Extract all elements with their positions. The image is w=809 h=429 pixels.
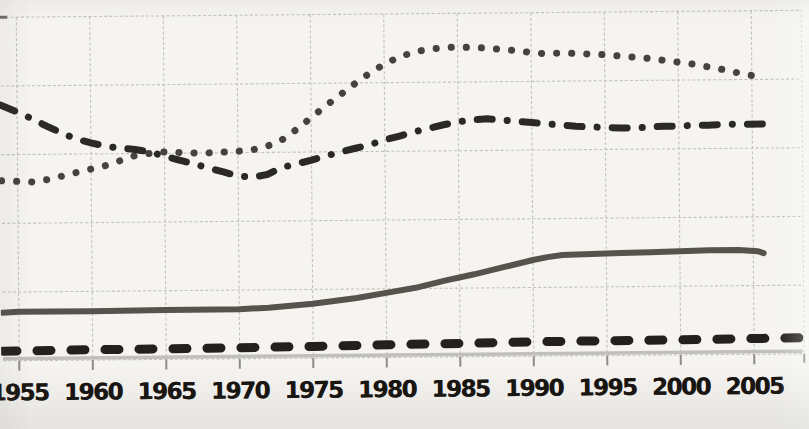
v-gridline bbox=[531, 13, 534, 356]
dashed-series-line bbox=[3, 338, 803, 351]
chart-canvas bbox=[0, 0, 809, 429]
light-gray-baseline-series-line bbox=[3, 351, 803, 359]
v-gridline-edge bbox=[801, 10, 804, 353]
h-gridline bbox=[0, 10, 800, 17]
v-gridline bbox=[384, 14, 387, 357]
v-gridline bbox=[457, 13, 460, 356]
h-gridline bbox=[2, 216, 802, 223]
v-gridline bbox=[604, 12, 607, 355]
v-gridline bbox=[751, 11, 754, 354]
solid-series-line bbox=[2, 250, 764, 313]
h-gridline bbox=[1, 148, 801, 155]
chart-tilt-wrapper: 1955196019651970197519801985199019952000… bbox=[0, 0, 809, 429]
h-gridline bbox=[1, 79, 801, 86]
dotted-series-line bbox=[0, 44, 755, 182]
